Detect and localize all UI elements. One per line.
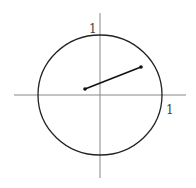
segment	[85, 67, 141, 89]
segment-start-point	[83, 87, 87, 91]
y-unit-label: 1	[89, 22, 97, 36]
x-unit-label: 1	[166, 103, 174, 117]
segment-end-point	[139, 65, 143, 69]
unit-circle-diagram: 1 1	[0, 0, 196, 188]
